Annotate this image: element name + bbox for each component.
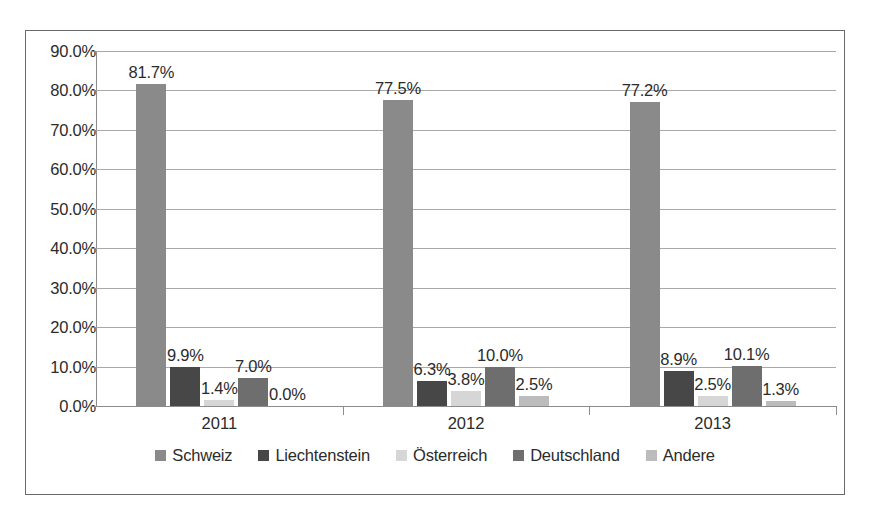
bar-value-label: 0.0% (269, 385, 306, 404)
y-axis-tick-label: 70.0% (30, 120, 96, 139)
y-axis-tick-label: 40.0% (30, 239, 96, 258)
bar-fill (451, 391, 481, 406)
bar-group-bars: 77.2%8.9%2.5%10.1%1.3% (589, 51, 836, 406)
bar-fill (732, 366, 762, 406)
bar-value-label: 77.5% (375, 79, 421, 98)
x-axis-category-label: 2013 (694, 414, 731, 433)
legend-item-schweiz[interactable]: Schweiz (155, 446, 232, 465)
legend-swatch-icon (155, 450, 166, 461)
legend-label: Liechtenstein (275, 446, 370, 465)
bar-fill (238, 378, 268, 406)
y-axis-tick-label: 50.0% (30, 199, 96, 218)
bar-fill (417, 381, 447, 406)
x-axis-category-separator (836, 406, 837, 415)
bar-fill (630, 102, 660, 407)
bar-value-label: 10.1% (724, 345, 770, 364)
y-axis-tick-label: 20.0% (30, 318, 96, 337)
gridline (96, 406, 836, 407)
bar-group: 81.7%9.9%1.4%7.0%0.0% (96, 51, 343, 406)
y-axis-tick-label: 90.0% (30, 42, 96, 61)
bar-group-bars: 77.5%6.3%3.8%10.0%2.5% (343, 51, 590, 406)
bar-group-bars: 81.7%9.9%1.4%7.0%0.0% (96, 51, 343, 406)
legend-item-liechtenstein[interactable]: Liechtenstein (258, 446, 370, 465)
chart-plot-wrapper: 0.0%10.0%20.0%30.0%40.0%50.0%60.0%70.0%8… (26, 31, 844, 494)
legend-label: Andere (663, 446, 715, 465)
bar-group: 77.2%8.9%2.5%10.1%1.3% (589, 51, 836, 406)
legend-item-andere[interactable]: Andere (646, 446, 715, 465)
chart-frame: 0.0%10.0%20.0%30.0%40.0%50.0%60.0%70.0%8… (25, 30, 845, 495)
bar-value-label: 6.3% (414, 360, 451, 379)
chart-legend: SchweizLiechtensteinÖsterreichDeutschlan… (26, 446, 844, 465)
legend-label: Schweiz (172, 446, 232, 465)
bar-value-label: 8.9% (660, 350, 697, 369)
plot-area: 81.7%9.9%1.4%7.0%0.0%77.5%6.3%3.8%10.0%2… (96, 51, 836, 406)
legend-swatch-icon (646, 450, 657, 461)
bar-value-label: 3.8% (448, 370, 485, 389)
bar-fill (664, 371, 694, 406)
bar-fill (485, 367, 515, 406)
x-axis-category-label: 2011 (202, 414, 237, 433)
bar-group: 77.5%6.3%3.8%10.0%2.5% (343, 51, 590, 406)
legend-label: Deutschland (530, 446, 620, 465)
bar-fill (170, 367, 200, 406)
legend-label: Österreich (413, 446, 487, 465)
bar-fill (766, 401, 796, 406)
bar-fill (519, 396, 549, 406)
y-axis-tick-label: 0.0% (30, 397, 96, 416)
legend-item--sterreich[interactable]: Österreich (396, 446, 487, 465)
bar-value-label: 7.0% (235, 357, 272, 376)
bar-value-label: 77.2% (622, 81, 668, 100)
bar-fill (383, 100, 413, 406)
bar-value-label: 1.4% (201, 379, 238, 398)
legend-swatch-icon (258, 450, 269, 461)
x-axis-category-labels: 201120122013 (96, 414, 836, 444)
y-axis-tick-label: 80.0% (30, 81, 96, 100)
bar-value-label: 1.3% (762, 380, 799, 399)
bar-value-label: 10.0% (477, 346, 523, 365)
y-axis-tick-labels: 0.0%10.0%20.0%30.0%40.0%50.0%60.0%70.0%8… (30, 44, 96, 404)
legend-swatch-icon (396, 450, 407, 461)
y-axis-tick-label: 10.0% (30, 357, 96, 376)
bar-value-label: 81.7% (128, 63, 174, 82)
y-axis-tick-label: 30.0% (30, 278, 96, 297)
bar-fill (698, 396, 728, 406)
legend-item-deutschland[interactable]: Deutschland (513, 446, 620, 465)
x-axis-category-label: 2012 (448, 414, 485, 433)
bar-value-label: 2.5% (694, 375, 731, 394)
bar-fill (136, 84, 166, 406)
bar-fill (204, 400, 234, 406)
y-axis-tick-label: 60.0% (30, 160, 96, 179)
y-axis-tick-mark (91, 406, 96, 407)
bar-value-label: 9.9% (167, 346, 204, 365)
legend-swatch-icon (513, 450, 524, 461)
bar-value-label: 2.5% (516, 375, 553, 394)
